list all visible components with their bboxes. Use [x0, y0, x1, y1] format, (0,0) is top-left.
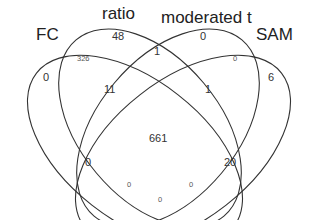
count-fc-ratio-sam: 20: [224, 156, 236, 168]
count-ratio-only: 48: [112, 30, 124, 42]
count-modt-only: 0: [200, 30, 206, 42]
ellipse-ratio: [22, 0, 277, 220]
count-fc-ratio-modt: 11: [104, 83, 115, 95]
label-moderated-t: moderated t: [161, 8, 252, 27]
count-all-four: 661: [149, 132, 167, 144]
count-fc-sam-small-left: 0: [127, 180, 131, 189]
venn-diagram: FC ratio moderated t SAM 0 48 0 6 326 1 …: [0, 0, 315, 220]
count-fc-sam-bottom: 0: [158, 195, 162, 204]
label-sam: SAM: [256, 25, 293, 44]
count-fc-modt-sam: 0: [85, 156, 91, 168]
count-fc-sam-small-right: 0: [189, 180, 193, 189]
ellipse-fc: [0, 18, 277, 220]
ellipse-sam: [41, 18, 315, 220]
count-ratio-modt-sam: 1: [205, 83, 211, 95]
label-fc: FC: [36, 25, 59, 44]
count-fc-ratio: 326: [77, 54, 90, 63]
count-sam-only: 6: [268, 71, 274, 83]
count-modt-sam: 0: [233, 54, 237, 63]
count-ratio-modt: 1: [154, 45, 160, 57]
count-fc-only: 0: [43, 71, 49, 83]
label-ratio: ratio: [102, 4, 135, 23]
